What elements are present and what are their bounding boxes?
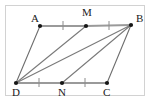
vertex-label-M: M: [82, 6, 92, 18]
segment-DB: [16, 25, 131, 83]
segment-DM: [16, 26, 86, 83]
segment-AD: [16, 26, 40, 83]
vertex-dot-B: [129, 23, 133, 27]
vertex-label-B: B: [136, 12, 143, 24]
vertex-label-N: N: [58, 86, 66, 98]
vertex-dot-C: [105, 81, 109, 85]
vertex-label-A: A: [31, 12, 39, 24]
vertex-dot-N: [60, 81, 64, 85]
interior-segments: [16, 25, 131, 83]
geometry-figure: A M B D N C: [0, 0, 152, 102]
vertex-dot-D: [14, 81, 18, 85]
segment-BC: [107, 25, 131, 83]
vertex-label-C: C: [103, 86, 110, 98]
vertex-label-D: D: [12, 86, 20, 98]
vertex-dot-A: [38, 24, 42, 28]
figure-canvas: A M B D N C: [0, 0, 152, 102]
vertex-dot-M: [84, 24, 88, 28]
